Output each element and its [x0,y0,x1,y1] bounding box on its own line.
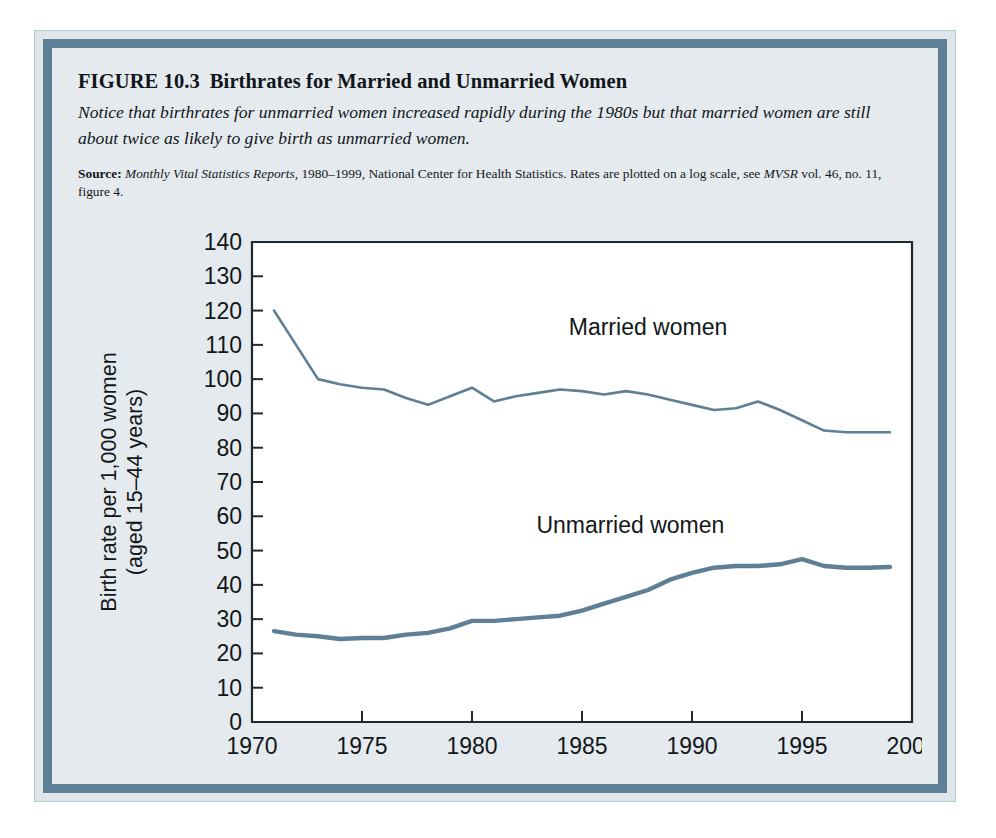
y-tick-label: 50 [216,538,242,564]
y-tick-label: 30 [216,606,242,632]
y-tick-label: 90 [216,400,242,426]
figure-border-band: FIGURE 10.3Birthrates for Married and Un… [43,39,947,793]
birthrate-line-chart: 0102030405060708090100110120130140 19701… [52,226,922,786]
x-tick-label: 1995 [776,733,827,759]
y-axis-title: Birth rate per 1,000 women(aged 15–44 ye… [97,352,147,611]
y-tick-label: 140 [204,229,242,255]
y-tick-label: 70 [216,469,242,495]
source-label: Source: [78,166,122,181]
source-text-1: 1980–1999, National Center for Health St… [298,166,764,181]
figure-number: FIGURE 10.3 [78,70,200,92]
x-tick-label: 1985 [556,733,607,759]
y-tick-label: 0 [229,709,242,735]
chart-container: 0102030405060708090100110120130140 19701… [52,226,938,786]
y-tick-label: 60 [216,503,242,529]
y-tick-label: 110 [205,332,242,358]
x-tick-label: 1970 [226,733,277,759]
figure-caption: Notice that birthrates for unmarried wom… [78,100,912,152]
x-tick-label: 1980 [446,733,497,759]
figure-outer-frame: FIGURE 10.3Birthrates for Married and Un… [34,30,956,802]
figure-title: FIGURE 10.3Birthrates for Married and Un… [78,70,912,93]
y-tick-label: 130 [204,263,242,289]
y-tick-label: 40 [216,572,242,598]
x-tick-label: 2000 [886,733,922,759]
series-annotation: Married women [569,314,728,340]
y-tick-label: 80 [216,435,242,461]
figure-panel: FIGURE 10.3Birthrates for Married and Un… [52,48,938,784]
y-tick-label: 120 [204,298,242,324]
figure-source: Source: Monthly Vital Statistics Reports… [78,165,912,202]
source-italic-2: MVSR [764,166,798,181]
x-tick-label: 1975 [336,733,387,759]
y-tick-label: 100 [204,366,242,392]
y-axis-title-line2: (aged 15–44 years) [123,389,147,575]
y-axis-title-line1: Birth rate per 1,000 women [97,352,121,611]
source-italic-1: Monthly Vital Statistics Reports, [125,166,298,181]
y-tick-label: 20 [216,640,242,666]
series-annotation: Unmarried women [536,512,724,538]
y-tick-label: 10 [216,675,242,701]
x-tick-label: 1990 [666,733,717,759]
figure-title-text: Birthrates for Married and Unmarried Wom… [210,70,627,92]
